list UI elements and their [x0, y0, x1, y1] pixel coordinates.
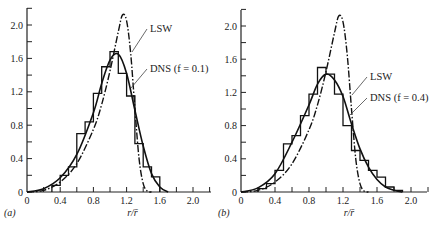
annotation-lsw: LSW [370, 71, 392, 82]
chart-panel-a: 00.40.81.21.62.000.40.81.21.62.0LSWDNS (… [4, 8, 211, 219]
panel-label: (a) [4, 207, 16, 219]
x-tick-label: 1.2 [337, 195, 350, 206]
x-tick-label: 1.6 [371, 195, 384, 206]
y-tick-label: 1.2 [11, 86, 24, 97]
y-tick-label: 1.2 [225, 87, 238, 98]
y-tick-label: 1.6 [225, 54, 238, 65]
y-tick-label: 2.0 [11, 20, 24, 31]
chart-panel-b: 00.40.81.21.62.000.40.81.21.62.0LSWDNS (… [218, 9, 429, 219]
y-tick-label: 0 [232, 187, 237, 198]
x-tick-label: 0.4 [54, 195, 67, 206]
x-tick-label: 1.6 [154, 195, 167, 206]
y-tick-label: 0.4 [11, 153, 24, 164]
x-tick-label: 0 [239, 195, 244, 206]
y-tick-label: 2.0 [225, 21, 238, 32]
y-tick-label: 0 [18, 187, 23, 198]
x-axis-label: r/r̄ [344, 207, 355, 218]
annotation-lsw: LSW [150, 23, 172, 34]
x-tick-label: 0.4 [269, 195, 282, 206]
x-tick-label: 0 [25, 195, 30, 206]
annotation-dns: DNS (f = 0.4) [370, 92, 429, 104]
x-axis-label: r/r̄ [127, 207, 138, 218]
panel-label: (b) [218, 207, 230, 219]
x-tick-label: 2.0 [405, 195, 418, 206]
x-tick-label: 2.0 [187, 195, 200, 206]
y-tick-label: 0.8 [11, 120, 24, 131]
x-tick-label: 1.2 [120, 195, 133, 206]
y-tick-label: 1.6 [11, 53, 24, 64]
dns-histogram [258, 68, 403, 193]
x-tick-label: 0.8 [303, 195, 316, 206]
lsw-curve [241, 15, 369, 192]
y-tick-label: 0.8 [225, 120, 238, 131]
annotation-dns: DNS (f = 0.1) [150, 63, 209, 75]
x-tick-label: 0.8 [87, 195, 100, 206]
y-tick-label: 0.4 [225, 153, 238, 164]
dns-fit-curve [27, 54, 168, 192]
figure: 00.40.81.21.62.000.40.81.21.62.0LSWDNS (… [0, 0, 436, 227]
